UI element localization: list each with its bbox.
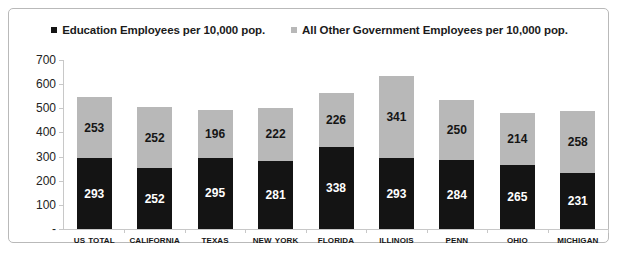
bar-value-label: 293 xyxy=(386,188,406,200)
bar-value-label: 258 xyxy=(568,136,588,148)
x-axis-label: Penn xyxy=(427,233,487,245)
bar-segment-education[interactable]: 252 xyxy=(137,168,172,229)
stacked-bar[interactable]: 250284 xyxy=(439,100,474,229)
y-axis-tick-label: 600 xyxy=(36,77,56,91)
stacked-bar[interactable]: 253293 xyxy=(77,97,112,229)
legend-entry-other-government: All Other Government Employees per 10,00… xyxy=(291,24,568,36)
bar-segment-education[interactable]: 295 xyxy=(198,158,233,229)
y-axis-tick-label: - xyxy=(52,222,56,236)
stacked-bar[interactable]: 196295 xyxy=(198,110,233,229)
legend-swatch-education xyxy=(51,27,57,33)
chart-frame: Education Employees per 10,000 pop. All … xyxy=(8,8,609,243)
legend-label-education: Education Employees per 10,000 pop. xyxy=(62,24,265,36)
bar-segment-other-government[interactable]: 222 xyxy=(258,108,293,162)
bar-segment-other-government[interactable]: 226 xyxy=(319,93,354,148)
legend-label-other-government: All Other Government Employees per 10,00… xyxy=(302,24,568,36)
x-axis-label: Florida xyxy=(306,233,366,245)
y-axis-tick-label: 700 xyxy=(36,53,56,67)
stacked-bar[interactable]: 214265 xyxy=(500,113,535,229)
bar-segment-education[interactable]: 265 xyxy=(500,165,535,229)
plot-area: -100200300400500600700 25329325225219629… xyxy=(64,60,608,229)
bar-segment-other-government[interactable]: 341 xyxy=(379,76,414,158)
bar-segment-education[interactable]: 284 xyxy=(439,160,474,229)
bar-value-label: 226 xyxy=(326,114,346,126)
bar-segment-other-government[interactable]: 253 xyxy=(77,97,112,158)
stacked-bar[interactable]: 222281 xyxy=(258,108,293,229)
bar-value-label: 295 xyxy=(205,187,225,199)
bar-segment-education[interactable]: 338 xyxy=(319,147,354,229)
x-axis-label: US Total xyxy=(64,233,124,245)
x-axis-label: California xyxy=(124,233,184,245)
bar-value-label: 252 xyxy=(145,132,165,144)
y-axis-tick-label: 100 xyxy=(36,198,56,212)
bar-segment-education[interactable]: 281 xyxy=(258,161,293,229)
bar-segment-other-government[interactable]: 214 xyxy=(500,113,535,165)
bar-segment-other-government[interactable]: 196 xyxy=(198,110,233,157)
legend-swatch-other-government xyxy=(291,27,297,33)
y-axis-tick xyxy=(59,229,64,230)
x-axis-line xyxy=(63,229,608,230)
bar-segment-education[interactable]: 231 xyxy=(560,173,595,229)
x-axis-tick xyxy=(608,229,609,233)
chart-legend: Education Employees per 10,000 pop. All … xyxy=(9,21,610,39)
stacked-bar[interactable]: 341293 xyxy=(379,76,414,229)
y-axis-tick-label: 200 xyxy=(36,174,56,188)
x-axis-label: Ohio xyxy=(487,233,547,245)
x-axis-label: Texas xyxy=(185,233,245,245)
y-axis-tick-label: 400 xyxy=(36,125,56,139)
stacked-bar[interactable]: 252252 xyxy=(137,107,172,229)
bar-value-label: 214 xyxy=(507,133,527,145)
bar-value-label: 252 xyxy=(145,193,165,205)
bar-series-container: 2532932522521962952222812263383412932502… xyxy=(64,60,608,229)
x-axis-label: Michigan xyxy=(548,233,608,245)
legend-entry-education: Education Employees per 10,000 pop. xyxy=(51,24,265,36)
bar-segment-education[interactable]: 293 xyxy=(77,158,112,229)
y-axis-tick-label: 500 xyxy=(36,101,56,115)
bar-segment-other-government[interactable]: 250 xyxy=(439,100,474,160)
bar-value-label: 293 xyxy=(84,188,104,200)
bar-value-label: 341 xyxy=(386,111,406,123)
bar-value-label: 250 xyxy=(447,124,467,136)
stacked-bar[interactable]: 226338 xyxy=(319,93,354,229)
x-axis-label: New York xyxy=(245,233,305,245)
bar-value-label: 196 xyxy=(205,128,225,140)
bar-value-label: 265 xyxy=(507,191,527,203)
bar-value-label: 281 xyxy=(266,189,286,201)
bar-value-label: 231 xyxy=(568,195,588,207)
x-axis-label: Illinois xyxy=(366,233,426,245)
bar-segment-other-government[interactable]: 252 xyxy=(137,107,172,168)
bar-segment-education[interactable]: 293 xyxy=(379,158,414,229)
bar-value-label: 253 xyxy=(84,122,104,134)
x-axis-labels: US TotalCaliforniaTexasNew YorkFloridaIl… xyxy=(64,233,608,249)
bar-value-label: 338 xyxy=(326,182,346,194)
bar-value-label: 222 xyxy=(266,128,286,140)
stacked-bar[interactable]: 258231 xyxy=(560,111,595,229)
bar-segment-other-government[interactable]: 258 xyxy=(560,111,595,173)
y-axis-tick-label: 300 xyxy=(36,150,56,164)
bar-value-label: 284 xyxy=(447,189,467,201)
